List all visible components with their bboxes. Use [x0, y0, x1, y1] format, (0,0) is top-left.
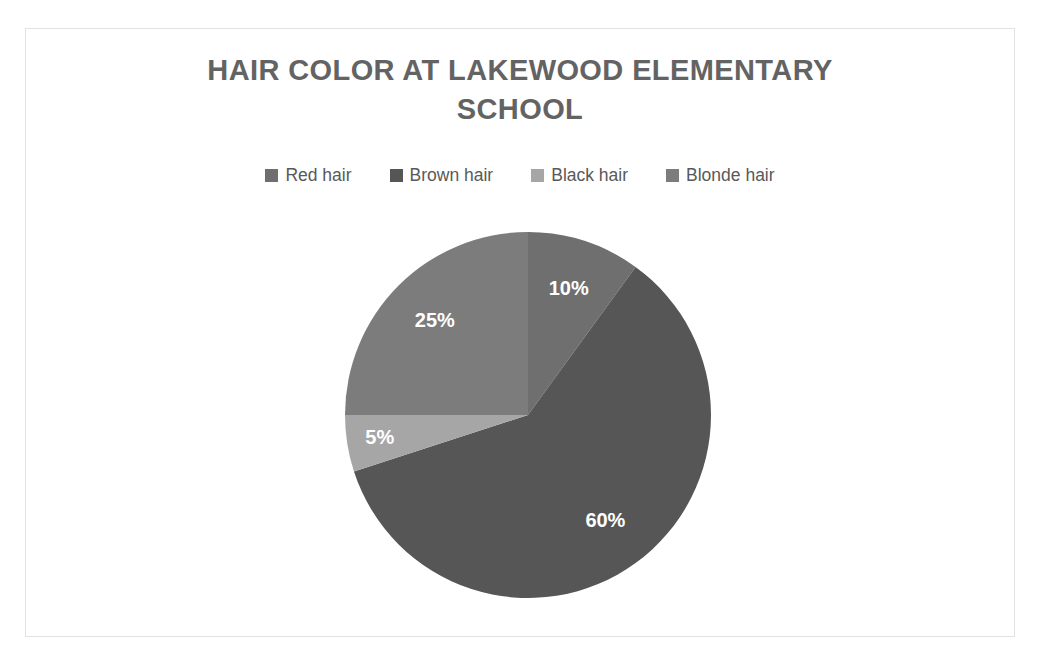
pie-slice-label: 60%	[585, 509, 625, 531]
legend-swatch-icon	[531, 169, 544, 182]
chart-title-line-2: SCHOOL	[26, 90, 1014, 129]
legend-item-label: Red hair	[285, 165, 351, 186]
pie-slice[interactable]	[345, 415, 528, 472]
legend-item-label: Blonde hair	[686, 165, 775, 186]
chart-frame: HAIR COLOR AT LAKEWOOD ELEMENTARY SCHOOL…	[25, 28, 1015, 637]
pie-slice-label: 5%	[365, 426, 394, 448]
legend-item-blonde-hair[interactable]: Blonde hair	[666, 165, 775, 186]
legend-item-label: Black hair	[551, 165, 628, 186]
pie-slice[interactable]	[354, 267, 711, 598]
legend-item-brown-hair[interactable]: Brown hair	[390, 165, 494, 186]
pie-slice-label: 25%	[415, 309, 455, 331]
chart-title: HAIR COLOR AT LAKEWOOD ELEMENTARY SCHOOL	[26, 51, 1014, 128]
legend-swatch-icon	[666, 169, 679, 182]
legend-item-red-hair[interactable]: Red hair	[265, 165, 351, 186]
legend-item-label: Brown hair	[410, 165, 494, 186]
pie-slice-group	[345, 232, 711, 598]
chart-legend: Red hair Brown hair Black hair Blonde ha…	[26, 165, 1014, 186]
pie-slice-label: 10%	[549, 277, 589, 299]
legend-swatch-icon	[265, 169, 278, 182]
pie-slice[interactable]	[528, 232, 636, 415]
pie-label-group: 10%60%5%25%	[365, 277, 625, 531]
pie-slice[interactable]	[345, 232, 528, 415]
legend-swatch-icon	[390, 169, 403, 182]
legend-item-black-hair[interactable]: Black hair	[531, 165, 628, 186]
chart-title-line-1: HAIR COLOR AT LAKEWOOD ELEMENTARY	[26, 51, 1014, 90]
